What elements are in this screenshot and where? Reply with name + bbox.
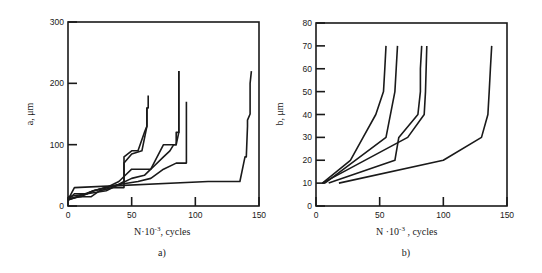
y-tick-label: 50 [303, 87, 313, 97]
chart-a-frame [68, 22, 259, 206]
y-tick-label: 0 [59, 201, 64, 211]
x-tick-label: 150 [252, 210, 266, 220]
chart-b-x-ticks: 050100150 [314, 197, 515, 220]
y-tick-label: 20 [303, 155, 313, 165]
y-tick-label: 0 [307, 201, 312, 211]
chart-a-series [68, 71, 251, 200]
y-tick-label: 200 [50, 78, 64, 88]
y-tick-label: 300 [50, 17, 64, 27]
x-tick-label: 0 [66, 210, 71, 220]
y-tick-label: 70 [303, 41, 313, 51]
data-series-line [68, 71, 251, 200]
y-tick-label: 100 [50, 140, 64, 150]
chart-a-caption: a) [158, 247, 166, 259]
data-series-line [322, 46, 426, 183]
chart-a-y-ticks: 0100200300 [50, 17, 77, 211]
chart-b-caption: b) [402, 247, 410, 259]
chart-b-ylabel: b, μm [274, 102, 285, 125]
x-tick-label: 100 [436, 210, 450, 220]
chart-a-ylabel: a, μm [24, 102, 35, 125]
chart-b-series [322, 46, 491, 183]
y-tick-label: 80 [303, 18, 313, 28]
chart-b: 01020304050607080 050100150 b, μm N ·10-… [274, 18, 514, 259]
y-tick-label: 40 [303, 110, 313, 120]
chart-a-xlabel: N·10-3, cycles [134, 225, 191, 237]
chart-a: 0100200300 050100150 a, μm N·10-3, cycle… [24, 17, 266, 259]
x-tick-label: 150 [500, 210, 514, 220]
data-series-line [322, 46, 386, 183]
x-tick-label: 0 [314, 210, 319, 220]
x-tick-label: 50 [127, 210, 137, 220]
y-tick-label: 30 [303, 132, 313, 142]
figure: 0100200300 050100150 a, μm N·10-3, cycle… [0, 0, 542, 273]
y-tick-label: 10 [303, 178, 313, 188]
x-tick-label: 50 [375, 210, 385, 220]
chart-b-xlabel: N ·10-3 , cycles [376, 225, 438, 237]
chart-b-y-ticks: 01020304050607080 [303, 18, 325, 211]
y-tick-label: 60 [303, 64, 313, 74]
chart-b-frame [316, 23, 507, 206]
chart-a-x-ticks: 050100150 [66, 197, 267, 220]
x-tick-label: 100 [188, 210, 202, 220]
